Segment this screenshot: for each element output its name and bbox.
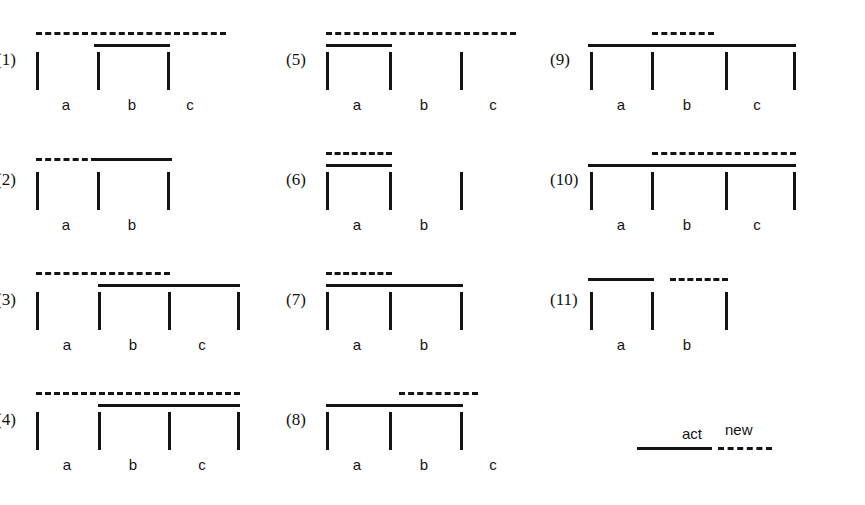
legend: actnew: [0, 0, 865, 505]
legend-label-new: new: [725, 421, 753, 438]
legend-swatch-new: [718, 447, 772, 450]
figure-canvas: (1)abc(2)ab(3)abc(4)abc(5)abc(6)ab(7)ab(…: [0, 0, 865, 505]
legend-swatch-act: [637, 447, 712, 450]
legend-label-act: act: [682, 425, 702, 442]
